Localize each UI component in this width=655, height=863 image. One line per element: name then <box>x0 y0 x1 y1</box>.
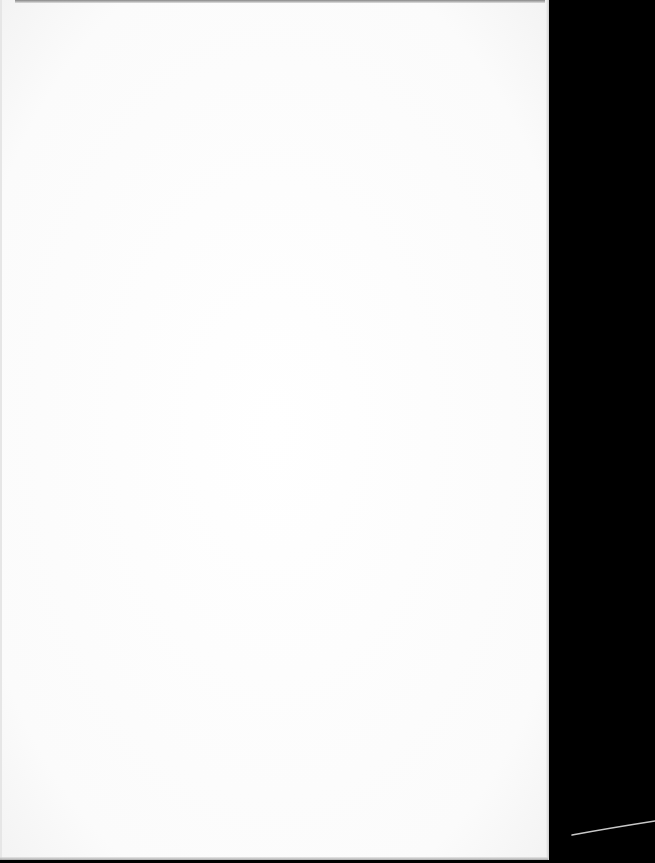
paper-top-edge-shadow <box>15 0 545 3</box>
paper-right-edge <box>546 0 549 860</box>
blank-paper-sheet <box>0 0 548 860</box>
paper-bottom-edge-shadow <box>0 857 548 860</box>
scanned-document <box>0 0 655 863</box>
paper-left-edge <box>0 0 2 860</box>
page-edge-curve-line <box>560 810 655 850</box>
